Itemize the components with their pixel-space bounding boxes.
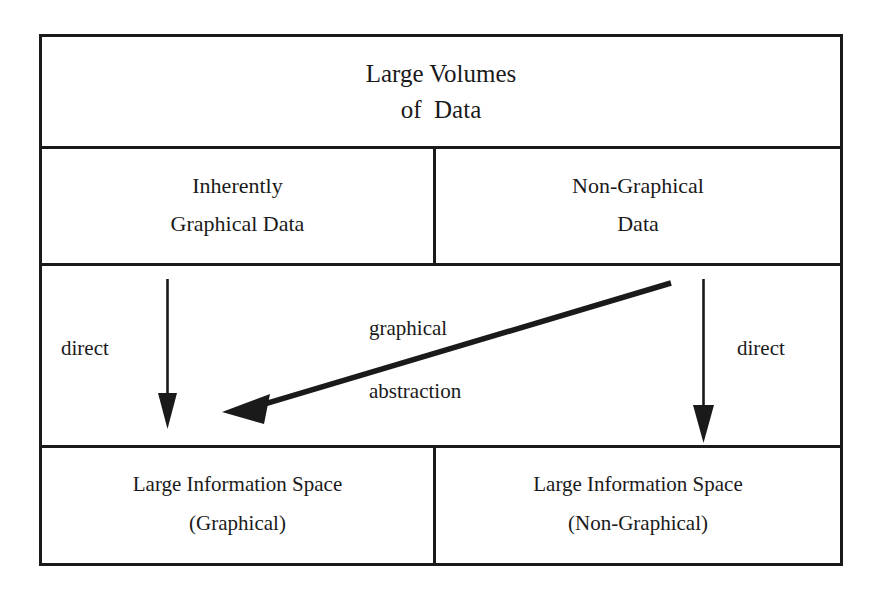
arrow-region bbox=[42, 266, 840, 445]
arrow-canvas bbox=[42, 266, 840, 445]
edge-label-direct-right: direct bbox=[737, 338, 785, 359]
node-lis-graphical-line-2: (Graphical) bbox=[189, 504, 286, 543]
edge-label-abstraction: abstraction bbox=[369, 381, 461, 402]
node-non-graphical-line-2: Data bbox=[617, 205, 659, 243]
edge-label-graphical: graphical bbox=[369, 318, 447, 339]
node-inherently-graphical-line-2: Graphical Data bbox=[171, 205, 305, 243]
node-lis-non-graphical-line-2: (Non-Graphical) bbox=[568, 504, 708, 543]
edge-label-direct-left: direct bbox=[61, 338, 109, 359]
node-inherently-graphical-line-1: Inherently bbox=[192, 167, 282, 205]
arrow-direct-right bbox=[693, 279, 714, 443]
diagram-root: Large Volumes of Data Inherently Graphic… bbox=[0, 0, 879, 590]
node-title-line-1: Large Volumes bbox=[366, 56, 517, 92]
node-non-graphical-line-1: Non-Graphical bbox=[572, 167, 704, 205]
node-large-information-space-non-graphical: Large Information Space (Non-Graphical) bbox=[436, 445, 840, 563]
arrow-direct-left bbox=[158, 279, 177, 429]
node-inherently-graphical-data: Inherently Graphical Data bbox=[42, 146, 433, 263]
node-lis-graphical-line-1: Large Information Space bbox=[133, 465, 343, 504]
node-title-line-2: of Data bbox=[401, 92, 482, 128]
node-non-graphical-data: Non-Graphical Data bbox=[436, 146, 840, 263]
node-lis-non-graphical-line-1: Large Information Space bbox=[533, 465, 743, 504]
node-large-volumes-of-data: Large Volumes of Data bbox=[42, 37, 840, 146]
node-large-information-space-graphical: Large Information Space (Graphical) bbox=[42, 445, 433, 563]
